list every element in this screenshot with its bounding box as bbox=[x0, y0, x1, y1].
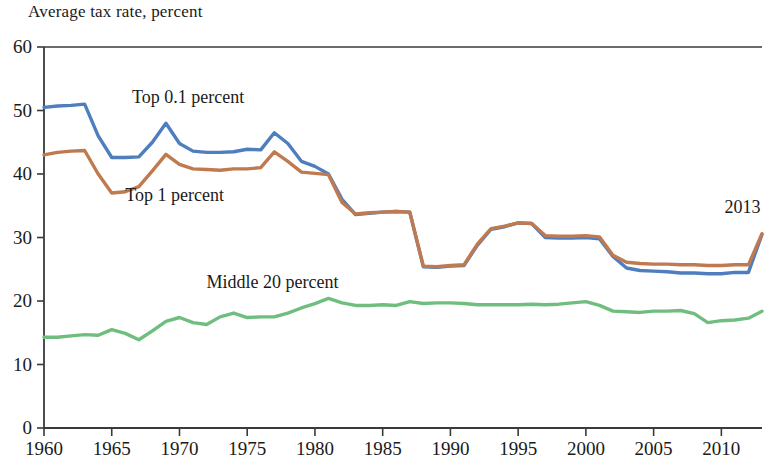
y-axis-tick-label: 10 bbox=[0, 354, 32, 376]
x-axis-tick-label: 1990 bbox=[431, 438, 469, 460]
x-axis-tick-label: 2005 bbox=[635, 438, 673, 460]
series-line-3 bbox=[44, 298, 762, 339]
tax-rate-chart: Average tax rate, percent 01020304050601… bbox=[0, 0, 772, 465]
series-label-3: Middle 20 percent bbox=[207, 272, 339, 293]
y-axis-tick-label: 50 bbox=[0, 100, 32, 122]
x-axis-tick-label: 1980 bbox=[296, 438, 334, 460]
x-axis-tick-label: 1960 bbox=[25, 438, 63, 460]
y-axis-tick-label: 60 bbox=[0, 36, 32, 58]
x-axis-tick-label: 2000 bbox=[567, 438, 605, 460]
y-axis-tick-label: 20 bbox=[0, 290, 32, 312]
x-axis-tick-label: 1985 bbox=[364, 438, 402, 460]
plot-area bbox=[0, 0, 772, 465]
x-axis-tick-label: 1975 bbox=[228, 438, 266, 460]
x-axis-tick-label: 2010 bbox=[702, 438, 740, 460]
series-label-1: Top 0.1 percent bbox=[132, 87, 244, 108]
y-axis-tick-label: 30 bbox=[0, 227, 32, 249]
y-axis-tick-label: 0 bbox=[0, 417, 32, 439]
annotation-2013: 2013 bbox=[724, 197, 760, 218]
series-label-2: Top 1 percent bbox=[125, 185, 224, 206]
x-axis-tick-label: 1995 bbox=[499, 438, 537, 460]
x-axis-tick-label: 1965 bbox=[93, 438, 131, 460]
x-axis-tick-label: 1970 bbox=[160, 438, 198, 460]
series-line-2 bbox=[44, 151, 762, 267]
y-axis-tick-label: 40 bbox=[0, 163, 32, 185]
